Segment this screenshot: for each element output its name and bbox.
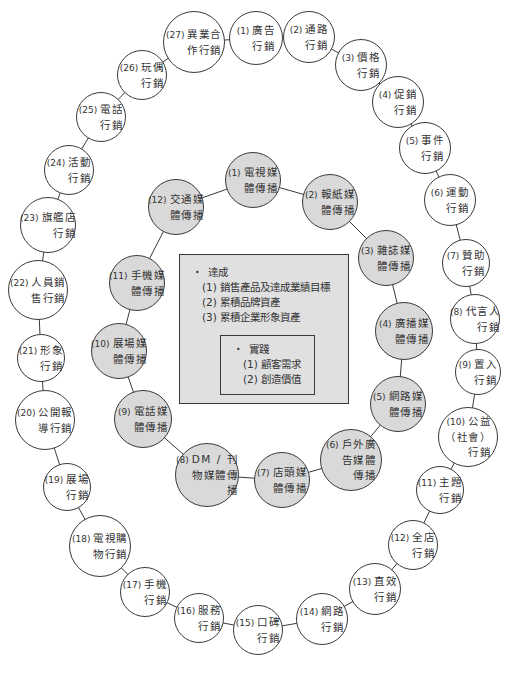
marketing-label: (13)直效行銷 [353,574,397,605]
marketing-diagram: (1)廣告行銷(2)通路行銷(3)價格行銷(4)促銷行銷(5)事件行銷(6)運動… [0,0,506,677]
media-label: (8)DM / 刊物媒體傳播 [176,452,238,498]
marketing-node: (1)廣告行銷 [229,11,283,65]
media-label: (1)電視媒體傳播 [228,165,278,196]
marketing-label: (19)展場行銷 [45,472,89,503]
media-label: (5)網路媒體傳播 [373,389,423,420]
media-node: (3)雜誌媒體傳播 [358,230,414,286]
media-label: (11)手機媒體傳播 [109,268,165,299]
practice-heading: ・實踐 [233,342,301,357]
marketing-node: (20)公開報導行銷 [15,390,75,450]
marketing-node: (12)全店行銷 [388,520,438,570]
marketing-label: (20)公開報導行銷 [17,405,73,436]
marketing-label: (12)全店行銷 [391,530,435,561]
marketing-node: (15)口碑行銷 [233,605,283,655]
marketing-label: (26)玩偶行銷 [120,60,164,91]
media-label: (3)雜誌媒體傳播 [361,243,411,274]
media-node: (12)交通媒體傳播 [148,179,204,235]
media-node: (4)廣播媒體傳播 [375,302,433,360]
marketing-label: (6)運動行銷 [431,185,470,216]
media-node: (1)電視媒體傳播 [225,152,281,208]
marketing-node: (11)主題行銷 [416,466,464,514]
marketing-node: (24)活動行銷 [44,145,94,195]
marketing-label: (25)電話行銷 [79,102,123,133]
marketing-node: (23)旗艦店行銷 [20,197,76,253]
marketing-label: (10)公益（社會）行銷 [445,414,491,460]
marketing-label: (4)促銷行銷 [379,87,418,118]
marketing-node: (13)直效行銷 [349,563,401,615]
marketing-label: (22)人員銷售行銷 [10,275,66,306]
marketing-node: (22)人員銷售行銷 [8,260,68,320]
bullet-icon: ・ [233,343,243,355]
goal-item: (1) 銷售產品及達成業績目標 [192,280,330,295]
media-label: (4)廣播媒體傳播 [379,316,429,347]
marketing-label: (21)形象行銷 [19,343,63,374]
marketing-node: (6)運動行銷 [424,174,476,226]
media-node: (10)展場媒體傳播 [91,323,147,379]
marketing-label: (24)活動行銷 [47,155,91,186]
marketing-label: (27)異業合作行銷 [166,27,222,58]
marketing-node: (26)玩偶行銷 [117,50,167,100]
marketing-label: (16)服務行銷 [177,603,221,634]
marketing-label: (11)主題行銷 [418,475,462,506]
marketing-node: (5)事件行銷 [399,122,451,174]
marketing-node: (17)手機行銷 [120,567,170,617]
marketing-label: (1)廣告行銷 [237,23,276,54]
media-label: (9)電話媒體傳播 [118,404,168,435]
media-label: (2)報紙媒體傳播 [305,187,355,218]
media-node: (9)電話媒體傳播 [114,390,172,448]
marketing-node: (14)網路行銷 [296,593,348,645]
marketing-node: (4)促銷行銷 [372,76,424,128]
bullet-icon: ・ [192,266,202,278]
marketing-node: (27)異業合作行銷 [163,11,225,73]
marketing-label: (14)網路行銷 [300,604,344,635]
media-label: (12)交通媒體傳播 [148,192,204,223]
media-label: (7)店頭媒體傳播 [257,465,307,496]
marketing-label: (3)價格行銷 [342,50,381,81]
practice-box: ・實踐 (1) 顧客需求 (2) 創造價值 [220,335,315,395]
media-node: (6)戶外廣告媒體傳播 [320,429,382,491]
practice-item: (2) 創造價值 [233,372,301,387]
center-goals-box: ・達成 (1) 銷售產品及達成業績目標 (2) 累積品牌資產 (3) 累積企業形… [179,254,349,404]
practice-item: (1) 顧客需求 [233,357,301,372]
marketing-label: (15)口碑行銷 [236,615,280,646]
marketing-node: (9)置入行銷 [455,349,501,395]
marketing-node: (10)公益（社會）行銷 [438,407,498,467]
media-node: (5)網路媒體傳播 [370,376,426,432]
goal-item: (2) 累積品牌資產 [192,295,330,310]
marketing-node: (18)電視購物行銷 [69,515,131,577]
media-node: (11)手機媒體傳播 [109,255,165,311]
marketing-node: (19)展場行銷 [43,463,91,511]
marketing-node: (7)贊助行銷 [442,239,490,287]
marketing-label: (7)贊助行銷 [447,248,486,279]
marketing-label: (2)通路行銷 [290,22,329,53]
marketing-node: (25)電話行銷 [76,92,126,142]
marketing-node: (16)服務行銷 [174,593,224,643]
marketing-node: (8)代言人行銷 [450,294,500,344]
marketing-node: (2)通路行銷 [283,11,335,63]
marketing-label: (9)置入行銷 [459,357,498,388]
marketing-label: (8)代言人行銷 [450,304,500,335]
media-label: (10)展場媒體傳播 [91,336,147,367]
marketing-node: (21)形象行銷 [17,334,65,382]
media-label: (6)戶外廣告媒體傳播 [326,437,376,483]
media-node: (8)DM / 刊物媒體傳播 [175,443,239,507]
media-node: (2)報紙媒體傳播 [302,174,358,230]
marketing-label: (23)旗艦店行銷 [20,210,76,241]
marketing-label: (18)電視購物行銷 [72,531,128,562]
marketing-label: (5)事件行銷 [406,133,445,164]
goals-heading: ・達成 [192,265,330,280]
marketing-label: (17)手機行銷 [123,577,167,608]
media-node: (7)店頭媒體傳播 [254,452,310,508]
goal-item: (3) 累積企業形象資產 [192,310,330,325]
